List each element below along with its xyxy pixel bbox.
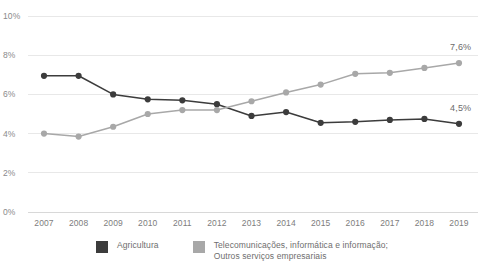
data-point: [248, 113, 254, 119]
data-point: [75, 73, 81, 79]
data-point: [283, 109, 289, 115]
y-tick-label: 4%: [3, 129, 16, 139]
y-tick-label: 0%: [3, 207, 16, 217]
chart-canvas: [0, 0, 484, 232]
data-point: [387, 117, 393, 123]
data-point: [283, 89, 289, 95]
legend-label: Telecomunicações, informática e informaç…: [214, 240, 388, 262]
data-point: [456, 60, 462, 66]
data-point: [179, 97, 185, 103]
y-tick-label: 6%: [3, 89, 16, 99]
data-point: [318, 82, 324, 88]
y-tick-label: 10%: [3, 11, 20, 21]
data-point: [248, 98, 254, 104]
data-point: [352, 119, 358, 125]
y-tick-label: 2%: [3, 168, 16, 178]
legend-swatch-icon: [96, 241, 108, 253]
data-point: [41, 73, 47, 79]
data-point: [214, 107, 220, 113]
data-point: [421, 65, 427, 71]
data-point: [145, 96, 151, 102]
data-point: [421, 116, 427, 122]
data-point: [214, 101, 220, 107]
data-point: [387, 70, 393, 76]
value-label-0: 4,5%: [450, 103, 471, 113]
data-point: [145, 111, 151, 117]
data-point: [352, 71, 358, 77]
legend-entry-1[interactable]: Telecomunicações, informática e informaç…: [193, 240, 388, 262]
data-point: [41, 131, 47, 137]
legend-swatch-icon: [193, 241, 205, 253]
plot-area: 10%8%6%4%2%0% 20072008200920102011201220…: [0, 0, 484, 232]
data-point: [110, 91, 116, 97]
data-point: [179, 107, 185, 113]
value-label-1: 7,6%: [450, 42, 471, 52]
chart-legend: AgriculturaTelecomunicações, informática…: [0, 240, 484, 274]
data-point: [110, 124, 116, 130]
data-point: [456, 121, 462, 127]
y-tick-label: 8%: [3, 50, 16, 60]
x-tick-label-2019: 2019: [439, 218, 479, 228]
legend-label: Agricultura: [117, 240, 159, 251]
data-point: [75, 133, 81, 139]
legend-entry-0[interactable]: Agricultura: [96, 240, 159, 253]
line-chart: 10%8%6%4%2%0% 20072008200920102011201220…: [0, 0, 484, 274]
data-point: [318, 120, 324, 126]
